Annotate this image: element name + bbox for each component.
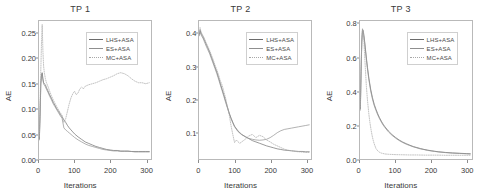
legend-line-swatch	[249, 48, 263, 49]
y-tick-label: 0.05	[21, 130, 36, 139]
x-tick-label: 200	[104, 166, 117, 175]
legend-label: ES+ASA	[427, 46, 451, 52]
x-tick-label: 0	[357, 166, 361, 175]
x-tick-label: 300	[301, 166, 314, 175]
legend-entry: MC+ASA	[89, 53, 134, 62]
x-tick-mark	[74, 160, 75, 163]
x-tick-label: 0	[196, 166, 200, 175]
legend-entry: ES+ASA	[410, 44, 455, 53]
x-tick-mark	[395, 160, 396, 163]
y-tick-label: 0.4	[346, 87, 356, 96]
x-tick-mark	[147, 160, 148, 163]
x-tick-mark	[307, 160, 308, 163]
y-tick-label: 0.20	[21, 54, 36, 63]
x-axis-label-tp1: Iterations	[0, 181, 160, 190]
y-tick-label: 0.15	[21, 79, 36, 88]
y-tick-label: 0.6	[346, 53, 356, 62]
legend-line-swatch	[410, 48, 424, 49]
legend-entry: LHS+ASA	[249, 35, 294, 44]
x-tick-mark	[38, 160, 39, 163]
legend-tp1: LHS+ASAES+ASAMC+ASA	[86, 32, 138, 65]
legend-line-swatch	[89, 39, 103, 40]
x-tick-label: 100	[68, 166, 81, 175]
x-tick-mark	[271, 160, 272, 163]
legend-line-swatch	[410, 39, 424, 40]
series-line	[39, 74, 149, 152]
x-tick-label: 100	[228, 166, 241, 175]
x-tick-label: 300	[461, 166, 474, 175]
y-tick-label: 0.0	[346, 156, 356, 165]
x-tick-label: 200	[264, 166, 277, 175]
legend-entry: LHS+ASA	[410, 35, 455, 44]
multi-panel-chart-figure: TP 1 AE 0.000.050.100.150.200.25 0100200…	[0, 0, 481, 192]
legend-entry: LHS+ASA	[89, 35, 134, 44]
y-tick-label: 0.2	[186, 96, 196, 105]
legend-line-swatch	[249, 57, 263, 58]
legend-label: MC+ASA	[427, 55, 452, 61]
x-tick-label: 300	[140, 166, 153, 175]
chart-panel-tp2: TP 2 AE 0.10.20.30.4 0100200300 LHS+ASAE…	[160, 0, 320, 192]
legend-tp3: LHS+ASAES+ASAMC+ASA	[407, 32, 459, 65]
legend-label: MC+ASA	[106, 55, 131, 61]
x-tick-mark	[198, 160, 199, 163]
y-tick-label: 0.3	[186, 62, 196, 71]
y-tick-label: 0.10	[21, 105, 36, 114]
x-tick-mark	[110, 160, 111, 163]
y-tick-label: 0.8	[346, 19, 356, 28]
legend-entry: ES+ASA	[89, 44, 134, 53]
x-axis-ticks-tp1: 0100200300	[38, 160, 152, 178]
legend-entry: ES+ASA	[249, 44, 294, 53]
x-tick-label: 0	[36, 166, 40, 175]
x-axis-ticks-tp3: 0100200300	[359, 160, 473, 178]
legend-label: ES+ASA	[266, 46, 290, 52]
panel-title-tp1: TP 1	[0, 4, 160, 14]
legend-line-swatch	[89, 48, 103, 49]
legend-line-swatch	[410, 57, 424, 58]
x-axis-label-tp2: Iterations	[160, 181, 320, 190]
chart-panel-tp1: TP 1 AE 0.000.050.100.150.200.25 0100200…	[0, 0, 160, 192]
x-tick-mark	[431, 160, 432, 163]
y-tick-label: 0.00	[21, 156, 36, 165]
x-tick-mark	[359, 160, 360, 163]
legend-label: ES+ASA	[106, 46, 130, 52]
y-tick-label: 0.4	[186, 29, 196, 38]
y-tick-label: 0.25	[21, 28, 36, 37]
x-tick-mark	[235, 160, 236, 163]
y-tick-label: 0.1	[186, 129, 196, 138]
panel-title-tp3: TP 3	[321, 4, 481, 14]
y-axis-ticks-tp2: 0.10.20.30.4	[160, 20, 196, 160]
panel-title-tp2: TP 2	[160, 4, 320, 14]
y-axis-ticks-tp3: 0.00.20.40.60.8	[321, 20, 357, 160]
legend-entry: MC+ASA	[410, 53, 455, 62]
series-line	[39, 73, 149, 152]
legend-label: LHS+ASA	[266, 37, 294, 43]
legend-line-swatch	[249, 39, 263, 40]
y-tick-label: 0.2	[346, 121, 356, 130]
x-tick-mark	[467, 160, 468, 163]
x-axis-ticks-tp2: 0100200300	[198, 160, 312, 178]
x-axis-label-tp3: Iterations	[321, 181, 481, 190]
y-axis-ticks-tp1: 0.000.050.100.150.200.25	[0, 20, 36, 160]
legend-label: MC+ASA	[266, 55, 291, 61]
legend-label: LHS+ASA	[106, 37, 134, 43]
x-tick-label: 100	[389, 166, 402, 175]
legend-label: LHS+ASA	[427, 37, 455, 43]
legend-entry: MC+ASA	[249, 53, 294, 62]
legend-tp2: LHS+ASAES+ASAMC+ASA	[246, 32, 298, 65]
x-tick-label: 200	[425, 166, 438, 175]
chart-panel-tp3: TP 3 AE 0.00.20.40.60.8 0100200300 LHS+A…	[321, 0, 481, 192]
legend-line-swatch	[89, 57, 103, 58]
